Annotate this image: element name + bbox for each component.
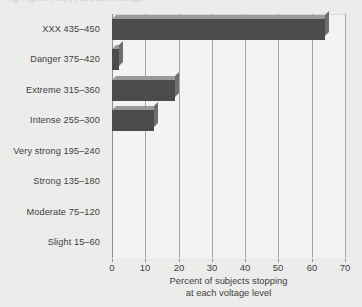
xtick-label-50: 50 <box>273 262 284 274</box>
bar-series <box>112 14 345 258</box>
bar-intense <box>112 110 154 131</box>
value-axis-ticks: 010203040506070 <box>112 259 345 273</box>
bar-row <box>112 228 345 259</box>
bar-row <box>112 75 345 106</box>
bar-row <box>112 45 345 76</box>
xtick-label-10: 10 <box>140 262 151 274</box>
x-axis-title-line2: at each voltage level <box>112 287 345 299</box>
xtick-label-30: 30 <box>207 262 218 274</box>
x-axis-title: Percent of subjects stopping at each vol… <box>112 275 345 299</box>
xtick-label-40: 40 <box>240 262 251 274</box>
plot-area <box>112 14 345 258</box>
category-axis-labels: XXX 435–450 Danger 375–420 Extreme 315–3… <box>0 14 106 258</box>
bar-chart: XXX 435–450 Danger 375–420 Extreme 315–3… <box>0 0 362 307</box>
category-label: Intense 255–300 <box>0 106 106 137</box>
xtick-label-70: 70 <box>340 262 351 274</box>
bar-xxx <box>112 19 325 40</box>
category-label: Danger 375–420 <box>0 45 106 76</box>
bar-row <box>112 167 345 198</box>
bar-row <box>112 106 345 137</box>
category-label: Slight 15–60 <box>0 228 106 259</box>
bar-row <box>112 136 345 167</box>
category-label: Strong 135–180 <box>0 167 106 198</box>
category-label: XXX 435–450 <box>0 14 106 45</box>
x-axis-title-line1: Percent of subjects stopping <box>112 275 345 287</box>
bar-danger <box>112 49 119 70</box>
bar-row <box>112 197 345 228</box>
xtick-label-60: 60 <box>307 262 318 274</box>
category-label: Moderate 75–120 <box>0 197 106 228</box>
bar-extreme <box>112 80 175 101</box>
bar-row <box>112 14 345 45</box>
gridline-70 <box>345 14 346 258</box>
xtick-label-20: 20 <box>174 262 185 274</box>
category-label: Extreme 315–360 <box>0 75 106 106</box>
category-label: Very strong 195–240 <box>0 136 106 167</box>
xtick-label-0: 0 <box>109 262 114 274</box>
